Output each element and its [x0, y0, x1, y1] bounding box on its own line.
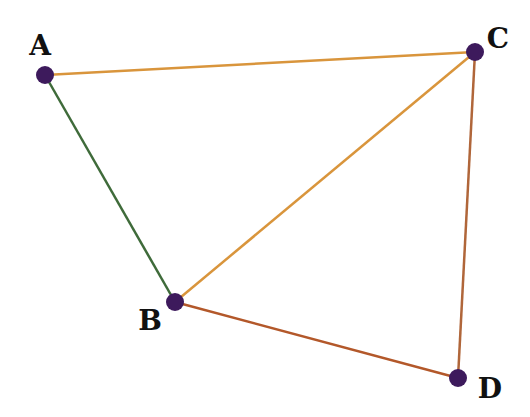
edge-A-B: [45, 75, 175, 302]
edge-A-C: [45, 52, 475, 75]
node-C: [466, 43, 484, 61]
node-label-B: B: [138, 304, 162, 337]
node-labels: ABCD: [28, 22, 509, 405]
nodes: [36, 43, 484, 387]
node-A: [36, 66, 54, 84]
node-B: [166, 293, 184, 311]
graph-diagram: ABCD: [0, 0, 530, 417]
node-label-C: C: [487, 22, 509, 55]
node-D: [449, 369, 467, 387]
edge-C-D: [458, 52, 475, 378]
edge-B-C: [175, 52, 475, 302]
edge-B-D: [175, 302, 458, 378]
edges: [45, 52, 475, 378]
node-label-D: D: [478, 372, 502, 405]
node-label-A: A: [28, 29, 52, 62]
